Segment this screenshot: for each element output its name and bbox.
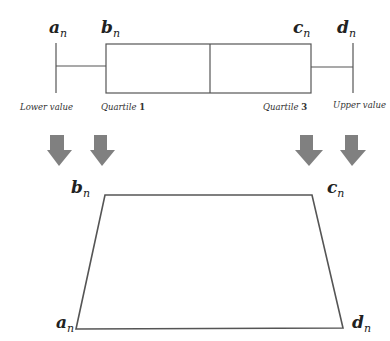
label-a-trapezoid: an — [56, 312, 74, 335]
label-c-trapezoid: cn — [327, 177, 344, 200]
down-arrow-icon — [47, 135, 72, 166]
label-a-top: an — [49, 17, 67, 40]
boxplot-to-trapezoid-diagram: an bn cn dn Lower value Quartile 1 Quart… — [0, 0, 390, 341]
label-b-top: bn — [101, 17, 120, 40]
down-arrow-icon — [295, 135, 323, 166]
trapezoidal-fuzzy-number: bn cn an dn — [56, 177, 371, 335]
caption-quartile-1: Quartile 1 — [101, 102, 145, 112]
trapezoid-shape — [76, 195, 343, 329]
caption-upper-value: Upper value — [333, 100, 386, 110]
down-arrow-icon — [340, 135, 366, 166]
label-d-trapezoid: dn — [352, 312, 371, 335]
caption-quartile-3: Quartile 3 — [263, 102, 307, 112]
label-c-top: cn — [293, 17, 310, 40]
label-d-top: dn — [337, 17, 356, 40]
mapping-arrows — [47, 135, 366, 166]
interquartile-box — [106, 44, 311, 93]
label-b-trapezoid: bn — [71, 177, 90, 200]
boxplot: an bn cn dn Lower value Quartile 1 Quart… — [19, 17, 386, 112]
down-arrow-icon — [90, 135, 115, 166]
caption-lower-value: Lower value — [19, 102, 73, 112]
